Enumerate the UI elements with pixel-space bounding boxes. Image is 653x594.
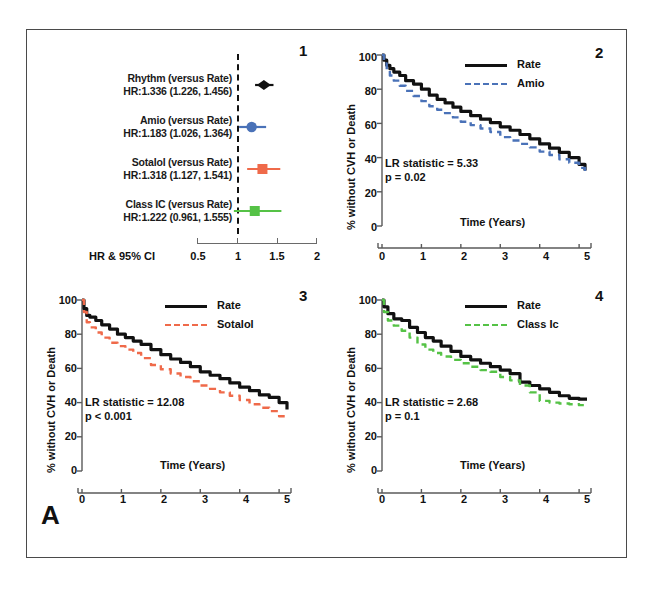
km4-svg-series-1 [382, 300, 587, 405]
forest-x-axis-title: HR & 95% CI [89, 250, 155, 262]
forest-xtick-label-0: 0.5 [185, 250, 211, 262]
forest-row-estimate-1: HR:1.183 (1.026, 1.364) [47, 127, 232, 140]
km2-legend-label-rate: Rate [517, 58, 541, 70]
km3-xtick-label-3: 3 [197, 493, 213, 505]
km2-xtick-label-5: 5 [579, 250, 595, 262]
km4-legend-swatch-rate [465, 305, 507, 308]
km4-xtick-label-2: 2 [456, 493, 472, 505]
km2-svg-series-0 [382, 55, 585, 170]
km4-xtick-label-1: 1 [415, 493, 431, 505]
km2-xtick-label-1: 1 [415, 250, 431, 262]
km4-xtick-label-0: 0 [374, 493, 390, 505]
forest-point-marker-2 [257, 164, 267, 174]
km2-xtick-label-0: 0 [374, 250, 390, 262]
km3-legend-swatch-rate [165, 305, 207, 308]
km2-xtick-label-3: 3 [497, 250, 513, 262]
km3-annotation-lr: LR statistic = 12.08 [85, 395, 184, 409]
km2-legend-label-amio: Amio [517, 77, 545, 89]
forest-marker-layer [27, 30, 327, 275]
km4-annotation-lr: LR statistic = 2.68 [385, 395, 478, 409]
km2-annotation-p: p = 0.02 [385, 170, 426, 184]
forest-xtick-3 [316, 238, 317, 244]
km4-x-axis-title: Time (Years) [460, 459, 525, 471]
km4-legend-label-rate: Rate [517, 299, 541, 311]
panel-km-sotalol: 3 % without CVH or Death 100 80 60 40 20… [27, 275, 328, 520]
forest-row-estimate-2: HR:1.318 (1.127, 1.541) [47, 169, 232, 182]
km3-legend-label-sotalol: Sotalol [217, 318, 254, 330]
km2-xtick-label-4: 4 [538, 250, 554, 262]
forest-x-axis-line [197, 243, 317, 244]
km2-legend-swatch-rate [465, 64, 507, 67]
km3-x-axis-title: Time (Years) [160, 459, 225, 471]
km4-svg-series-0 [382, 300, 587, 399]
panel-number-1: 1 [299, 42, 307, 59]
forest-row-estimate-3: HR:1.222 (0.961, 1.555) [47, 211, 232, 224]
km4-annotation-p: p = 0.1 [385, 409, 420, 423]
forest-xtick-label-2: 1.5 [264, 250, 290, 262]
forest-row-label-1: Amio (versus Rate) HR:1.183 (1.026, 1.36… [47, 114, 232, 140]
km4-legend-label-classic: Class Ic [517, 318, 559, 330]
panel-km-amio: 2 % without CVH or Death 100 80 60 40 20… [327, 30, 628, 275]
km4-xtick-label-4: 4 [538, 493, 554, 505]
forest-row-label-3: Class IC (versus Rate) HR:1.222 (0.961, … [47, 198, 232, 224]
forest-row-name-2: Sotalol (versus Rate) [47, 156, 232, 169]
forest-point-marker-0 [257, 80, 271, 90]
km4-legend-swatch-classic [465, 324, 507, 326]
km3-xtick-label-1: 1 [115, 493, 131, 505]
panel-forest-plot: 1 Rhythm (versus Rate) HR:1.336 (1.226, … [27, 30, 327, 275]
km2-annotation-lr: LR statistic = 5.33 [385, 156, 478, 170]
forest-row-name-1: Amio (versus Rate) [47, 114, 232, 127]
forest-row-label-0: Rhythm (versus Rate) HR:1.336 (1.226, 1.… [47, 72, 232, 98]
km3-xtick-label-5: 5 [279, 493, 295, 505]
forest-row-label-2: Sotalol (versus Rate) HR:1.318 (1.127, 1… [47, 156, 232, 182]
km3-xtick-label-2: 2 [156, 493, 172, 505]
forest-point-marker-1 [246, 122, 256, 132]
forest-row-name-0: Rhythm (versus Rate) [47, 72, 232, 85]
forest-point-marker-3 [250, 206, 260, 216]
forest-row-name-3: Class IC (versus Rate) [47, 198, 232, 211]
km3-legend-swatch-sotalol [165, 324, 207, 326]
km3-legend-label-rate: Rate [217, 299, 241, 311]
panel-km-classic: 4 % without CVH or Death 100 80 60 40 20… [327, 275, 628, 520]
km2-svg-series-1 [382, 55, 585, 172]
figure-frame: 1 Rhythm (versus Rate) HR:1.336 (1.226, … [26, 29, 627, 558]
km3-annotation-p: p < 0.001 [85, 409, 132, 423]
forest-null-reference-line [237, 54, 239, 234]
forest-xtick-1 [237, 238, 238, 244]
km2-x-axis-title: Time (Years) [460, 216, 525, 228]
km3-svg-series-0 [82, 300, 287, 409]
km2-legend-swatch-amio [465, 83, 507, 85]
km2-xtick-label-2: 2 [456, 250, 472, 262]
km3-xtick-label-4: 4 [238, 493, 254, 505]
km4-xtick-label-3: 3 [497, 493, 513, 505]
km3-xtick-label-0: 0 [74, 493, 90, 505]
forest-row-estimate-0: HR:1.336 (1.226, 1.456) [47, 85, 232, 98]
forest-xtick-0 [197, 238, 198, 244]
figure-panel-label-A: A [41, 500, 60, 531]
km4-xtick-label-5: 5 [579, 493, 595, 505]
forest-xtick-label-1: 1 [225, 250, 251, 262]
forest-xtick-2 [277, 238, 278, 244]
